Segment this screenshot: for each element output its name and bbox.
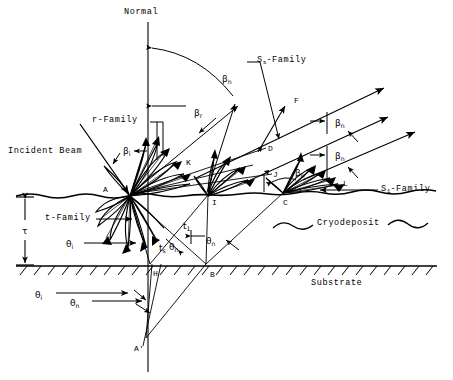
point-label-F: F [294,97,299,105]
beta-n-tick-upper [310,112,358,142]
scatter-lobes-at-I [194,149,255,196]
point-label-I: I [212,199,217,207]
label-t-family: t-Family [45,214,91,223]
scatter-lobes-at-A [96,136,191,254]
point-label-C: C [283,199,288,207]
ss-family-suffix: -Family [266,55,306,65]
angle-label-beta-n-2: βn [335,152,345,162]
angle-label-tau: τ [22,227,27,236]
angle-label-subscript: n [175,246,179,253]
angle-label-subscript: n [341,155,345,162]
beta-n-arc-indicator [152,48,233,96]
angle-label-beta-n-1: βn [335,119,345,129]
emergent-ray-top [196,88,384,178]
point-label-H: H [153,270,158,278]
label-s1-family: S1-Family [381,185,430,195]
ray-B-to-C [206,193,283,264]
angle-label-theta-n-a: θn [169,243,178,253]
angle-label-beta-i: βi [123,147,130,157]
label-normal: Normal [124,8,158,17]
angle-label-subscript: i [41,294,43,301]
angle-label-base: τ [22,226,27,236]
label-r-family: r-Family [92,116,138,125]
cryodeposit-surface-line [16,190,436,198]
angle-label-subscript: n [212,240,216,247]
point-label-D: D [268,145,273,153]
label-cryodeposit: Cryodeposit [317,219,380,228]
angle-label-beta-n-arc: βn [222,75,232,85]
emergent-ray-mid [244,117,388,183]
substrate-line [16,266,437,275]
point-label-J: J [273,171,278,179]
cryodeposit-squiggle-right [388,220,428,228]
ss-family-leader [247,62,279,139]
label-ss-family: Ss-Family [257,56,306,66]
angle-label-theta-i-low: θi [35,291,42,301]
angle-label-theta-i-mid: θi [66,240,73,250]
angle-label-theta-n-low: θn [70,299,79,309]
point-label-L: L [343,180,348,188]
angle-label-subscript: n [341,122,345,129]
point-label-K: K [186,159,191,167]
angle-label-subscript: n [76,302,80,309]
ray-Aprime-extend [143,264,161,346]
diagram-canvas: Normal Incident Beam r-Family t-Family S… [0,0,453,380]
angle-label-subscript: s [163,247,166,254]
angle-label-t-1: t1 [183,222,190,232]
angle-label-subscript: i [129,150,131,157]
angle-label-beta-n-3: βn [295,169,305,179]
point-label-A: A [103,186,108,194]
cryodeposit-squiggle-left [273,223,313,229]
theta-n-low-indicator [92,301,150,313]
label-substrate: Substrate [311,279,362,288]
ray-B-to-I [206,195,208,264]
angle-label-subscript: r [200,112,203,119]
s1-family-suffix: -Family [390,184,430,194]
angle-label-subscript: n [301,172,305,179]
angle-label-subscript: n [228,78,232,85]
point-label-Ap: A' [134,345,144,353]
point-label-B: B [210,271,215,279]
label-incident-beam: Incident Beam [8,147,82,156]
angle-label-beta-r: βr [194,109,202,119]
angle-label-subscript: i [72,243,74,250]
angle-label-t-s: ts [159,244,166,254]
angle-label-subscript: 1 [187,225,191,232]
angle-label-theta-n-b: θn [206,237,215,247]
